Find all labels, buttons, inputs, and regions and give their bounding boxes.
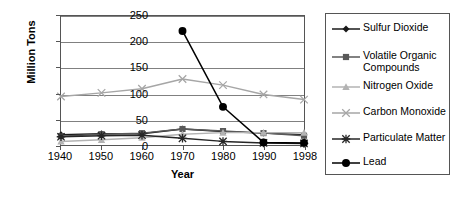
x-tick-label: 1970: [161, 150, 205, 162]
series-4: [57, 75, 308, 103]
legend-item-6[interactable]: Lead: [331, 156, 386, 169]
data-point-marker: [178, 134, 187, 142]
x-tick-mark: [60, 146, 61, 150]
legend-label: Carbon Monoxide: [361, 106, 446, 118]
x-tick-label: 1940: [38, 150, 82, 162]
legend-item-3[interactable]: Nitrogen Oxide: [331, 80, 433, 93]
x-tick-mark: [264, 146, 265, 150]
x-tick-label: 1990: [242, 150, 286, 162]
series-line: [183, 31, 305, 143]
legend-item-4[interactable]: Carbon Monoxide: [331, 106, 446, 119]
series-6: [179, 27, 308, 147]
legend-item-1[interactable]: Sulfur Dioxide: [331, 22, 428, 35]
legend-marker-icon: [331, 157, 361, 169]
data-point-marker: [57, 133, 66, 141]
y-tick-mark: [56, 15, 60, 16]
legend-marker-icon: [331, 51, 361, 63]
legend-marker-icon: [331, 107, 361, 119]
legend-marker-icon: [331, 23, 361, 35]
x-tick-mark: [183, 146, 184, 150]
x-tick-label: 1960: [120, 150, 164, 162]
x-tick-label: 1950: [79, 150, 123, 162]
data-series-layer: [61, 16, 304, 145]
y-tick-label: 50: [112, 115, 148, 125]
legend-label: Nitrogen Oxide: [361, 80, 433, 92]
x-tick-mark: [101, 146, 102, 150]
data-point-marker: [342, 159, 350, 167]
y-tick-label: 200: [112, 36, 148, 46]
x-tick-mark: [305, 146, 306, 150]
data-point-marker: [219, 103, 227, 111]
y-tick-mark: [56, 67, 60, 68]
legend-label: Volatile Organic Compounds: [361, 50, 449, 73]
legend-item-2[interactable]: Volatile Organic Compounds: [331, 50, 449, 73]
data-point-marker: [219, 137, 228, 145]
y-tick-label: 250: [112, 10, 148, 20]
chart-legend: Sulfur DioxideVolatile Organic Compounds…: [325, 13, 450, 175]
y-tick-label: 100: [112, 89, 148, 99]
data-point-marker: [343, 26, 350, 33]
y-tick-mark: [56, 94, 60, 95]
plot-area: [60, 15, 305, 146]
data-point-marker: [300, 139, 308, 147]
data-point-marker: [343, 54, 349, 60]
x-tick-label: 1998: [283, 150, 327, 162]
y-tick-label: 150: [112, 62, 148, 72]
x-axis-title: Year: [60, 168, 305, 180]
y-axis-title: Million Tons: [25, 0, 37, 107]
data-point-marker: [179, 27, 187, 35]
chart-figure: Million Tons 050100150200250 19401950196…: [0, 0, 457, 198]
x-tick-mark: [142, 146, 143, 150]
data-point-marker: [138, 131, 147, 139]
legend-label: Particulate Matter: [361, 132, 445, 144]
x-tick-label: 1980: [201, 150, 245, 162]
data-point-marker: [97, 131, 106, 139]
series-line: [61, 79, 304, 100]
y-tick-mark: [56, 41, 60, 42]
legend-label: Sulfur Dioxide: [361, 22, 428, 34]
y-tick-mark: [56, 120, 60, 121]
legend-marker-icon: [331, 133, 361, 145]
x-tick-mark: [223, 146, 224, 150]
legend-label: Lead: [361, 156, 386, 168]
data-point-marker: [342, 135, 351, 144]
legend-item-5[interactable]: Particulate Matter: [331, 132, 445, 145]
legend-marker-icon: [331, 81, 361, 93]
